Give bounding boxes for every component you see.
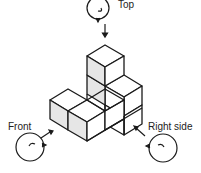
right-side-label: Right side: [148, 122, 192, 132]
right-side-arrow: [134, 126, 145, 136]
front-label: Front: [8, 122, 31, 132]
top-arrow: [103, 24, 108, 37]
right-side-eye-icon: [146, 134, 177, 162]
cube-structure-diagram: [0, 0, 201, 173]
top-label: Top: [118, 0, 134, 10]
front-arrow: [41, 130, 53, 138]
top-eye-icon: [87, 0, 109, 22]
